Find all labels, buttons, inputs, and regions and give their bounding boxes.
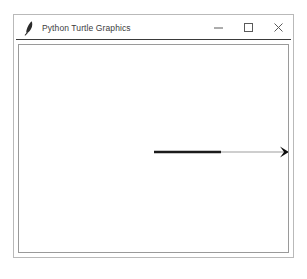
feather-pen-icon [22, 20, 36, 36]
close-icon [273, 22, 284, 33]
maximize-button[interactable] [233, 16, 263, 40]
turtle-drawing [19, 45, 288, 252]
maximize-icon [243, 22, 254, 33]
minimize-icon [213, 22, 224, 33]
close-button[interactable] [263, 16, 293, 40]
screen: Python Turtle Graphics [0, 0, 307, 279]
minimize-button[interactable] [203, 16, 233, 40]
turtle-graphics-window[interactable]: Python Turtle Graphics [13, 14, 294, 258]
turtle-drawing-canvas[interactable] [18, 44, 289, 253]
window-controls [203, 15, 293, 40]
window-title-bar[interactable]: Python Turtle Graphics [14, 15, 293, 40]
window-title-text: Python Turtle Graphics [42, 23, 203, 33]
